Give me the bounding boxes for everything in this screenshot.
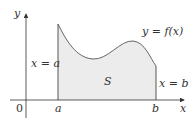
curve-label: y = f(x) (141, 25, 183, 38)
y-axis-label: y (13, 7, 21, 20)
left-boundary-label: x = a (31, 57, 60, 70)
origin-label: 0 (16, 102, 23, 115)
region-s-label: S (104, 75, 112, 88)
b-tick-label: b (152, 102, 159, 115)
x-axis-label: x (180, 102, 187, 115)
a-tick-label: a (55, 102, 62, 115)
area-under-curve-diagram: y x 0 a b x = a x = b y = f(x) S (0, 0, 193, 125)
right-boundary-label: x = b (159, 77, 188, 90)
